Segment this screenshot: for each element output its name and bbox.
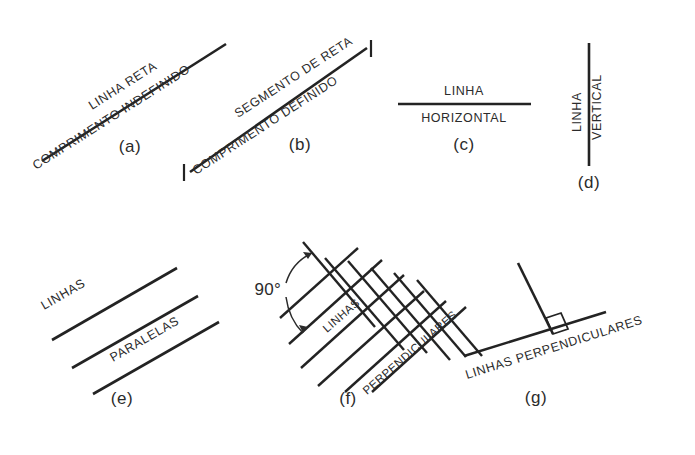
figure-e-line-2	[72, 296, 198, 368]
figure-e-label-above: LINHAS	[39, 276, 88, 313]
geometry-figures-canvas: LINHA RETA COMPRIMENTO INDEFINIDO (a) SE…	[0, 0, 695, 455]
figure-c-label-above: LINHA	[444, 84, 484, 98]
figure-b-caption: (b)	[289, 135, 311, 154]
figure-e-caption: (e)	[111, 389, 133, 408]
figure-f-angle-annotation: 90°	[254, 252, 312, 333]
figure-f-label-above: LINHAS	[320, 296, 361, 334]
figure-g-caption: (g)	[525, 388, 547, 407]
figure-d: LINHA VERTICAL (d)	[570, 43, 604, 192]
figure-f-angle-label: 90°	[254, 280, 281, 299]
figure-g: LINHAS PERPENDICULARES (g)	[464, 263, 644, 407]
figure-sheet: LINHA RETA COMPRIMENTO INDEFINIDO (a) SE…	[0, 0, 695, 455]
figure-d-label-left: LINHA	[570, 92, 584, 132]
figure-d-caption: (d)	[578, 173, 600, 192]
figure-e-label-below: PARALELAS	[108, 314, 182, 365]
figure-f-caption: (f)	[339, 389, 357, 408]
figure-d-label-right: VERTICAL	[590, 74, 604, 140]
figure-e: LINHAS PARALELAS (e)	[39, 268, 220, 408]
figure-a-caption: (a)	[119, 137, 141, 156]
figure-c-caption: (c)	[453, 135, 474, 154]
figure-c: LINHA HORIZONTAL (c)	[398, 84, 531, 154]
figure-c-label-below: HORIZONTAL	[421, 111, 507, 125]
figure-a-label-below: COMPRIMENTO INDEFINIDO	[30, 62, 193, 173]
figure-f: 90° LINHAS PERPENDICULARES (f)	[254, 242, 482, 408]
figure-a: LINHA RETA COMPRIMENTO INDEFINIDO (a)	[30, 44, 226, 173]
figure-b: SEGMENTO DE RETA COMPRIMENTO DEFINIDO (b…	[184, 34, 371, 181]
